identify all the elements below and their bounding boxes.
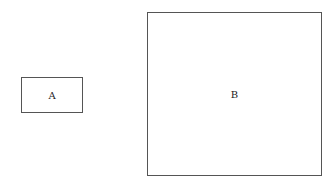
- box-b-label: B: [231, 89, 238, 100]
- box-a-label: A: [48, 90, 55, 101]
- box-a: A: [21, 77, 83, 113]
- box-b: B: [147, 12, 322, 176]
